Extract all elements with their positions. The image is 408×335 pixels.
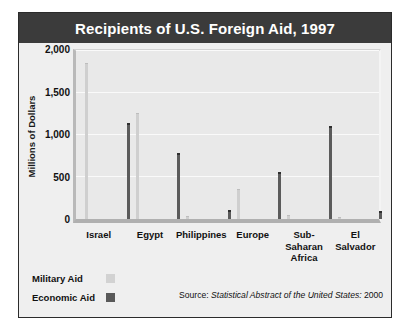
bar-military-aid [186,216,189,219]
y-tick-label: 0 [64,214,70,225]
legend-swatch [106,274,115,283]
bar-economic-aid [278,172,281,219]
x-tick-label: Israel [73,229,124,241]
x-tick-label: Philippines [176,229,227,241]
bar-military-aid [287,215,290,219]
plot-frame [73,49,381,223]
legend-swatch [106,293,115,302]
chart-footer: Military AidEconomic Aid Source: Statist… [19,269,391,315]
legend: Military AidEconomic Aid [32,269,115,307]
bar-group [237,51,282,219]
bar-economic-aid [329,126,332,219]
bar-group [85,51,130,219]
bar-economic-aid [228,210,231,219]
bar-military-aid [136,113,139,219]
x-axis-ticks: IsraelEgyptPhilippinesEuropeSub-SaharanA… [73,229,381,263]
y-axis-label: Millions of Dollars [25,49,39,224]
legend-item: Military Aid [32,269,115,288]
chart-figure: Recipients of U.S. Foreign Aid, 1997 Mil… [18,12,392,318]
bar-economic-aid [379,211,382,219]
legend-label: Economic Aid [32,292,106,303]
bar-group [186,51,231,219]
bar-economic-aid [177,153,180,219]
plot-block: Millions of Dollars 05001,0001,5002,000 … [25,49,383,271]
bar-economic-aid [127,123,130,219]
plot-area [76,51,379,219]
bar-military-aid [85,63,88,219]
bar-group [287,51,332,219]
source-title: Statistical Abstract of the United State… [211,290,362,300]
y-tick-label: 2,000 [45,44,70,55]
source-prefix: Source: [179,290,209,300]
legend-item: Economic Aid [32,288,115,307]
legend-label: Military Aid [32,273,106,284]
x-tick-label: Sub-SaharanAfrica [278,229,329,264]
bar-group [338,51,383,219]
bar-military-aid [338,217,341,219]
chart-title-bar: Recipients of U.S. Foreign Aid, 1997 [19,13,391,43]
source-note: Source: Statistical Abstract of the Unit… [179,290,383,300]
y-tick-label: 1,500 [45,86,70,97]
y-tick-label: 500 [53,171,70,182]
bar-military-aid [237,189,240,219]
x-tick-label: Egypt [124,229,175,241]
source-year: 2000 [364,290,383,300]
y-axis-label-text: Millions of Dollars [27,96,38,178]
x-tick-label: ElSalvador [330,229,381,252]
y-axis-ticks: 05001,0001,5002,000 [39,49,72,219]
page-title: Recipients of U.S. Foreign Aid, 1997 [75,20,335,37]
x-tick-label: Europe [227,229,278,241]
y-tick-label: 1,000 [45,129,70,140]
bar-group [136,51,181,219]
